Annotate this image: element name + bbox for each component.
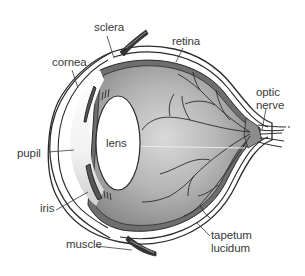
eye-diagram [0,0,305,276]
label-optic-nerve: optic nerve [256,86,284,111]
label-cornea: cornea [52,56,87,68]
label-retina: retina [172,35,200,47]
label-tapetum-lucidum: tapetum lucidum [211,229,252,254]
label-sclera: sclera [94,21,124,33]
label-pupil: pupil [17,147,41,159]
label-iris: iris [40,202,54,214]
label-lens: lens [106,137,127,149]
label-muscle: muscle [66,238,102,250]
